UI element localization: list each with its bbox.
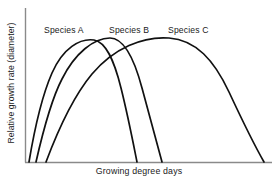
curve-species-b [36, 38, 162, 162]
series-label-species-a: Species A [44, 25, 84, 35]
curve-species-a [29, 40, 137, 162]
x-axis-label: Growing degree days [0, 166, 278, 176]
curve-species-c [46, 38, 264, 162]
series-label-species-b: Species B [109, 25, 149, 35]
y-axis-label: Relative growth rate (diameter) [6, 22, 16, 143]
y-axis-label-container: Relative growth rate (diameter) [2, 0, 20, 166]
growth-rate-chart: Species A Species B Species C Growing de… [0, 0, 278, 179]
series-label-species-c: Species C [168, 25, 209, 35]
